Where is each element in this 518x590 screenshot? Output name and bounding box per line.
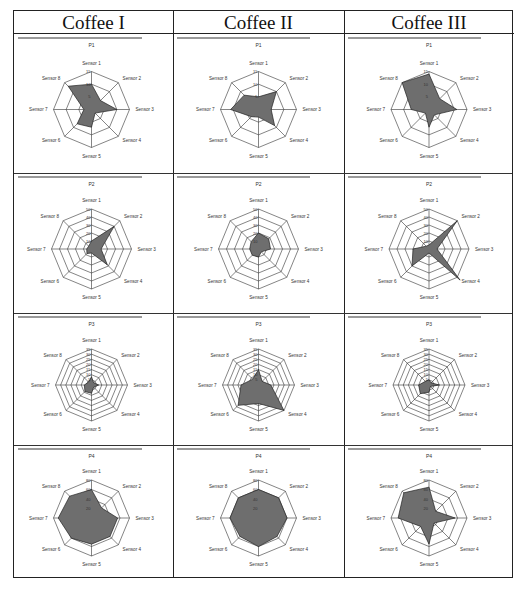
tick-label: 40 — [424, 497, 429, 502]
column-header-coffee-3: Coffee III — [344, 11, 514, 34]
tick-label: 15 — [86, 367, 91, 372]
data-series-area — [68, 84, 117, 127]
axis-label: Sensor 8 — [209, 76, 228, 81]
axis-label: Sensor 5 — [420, 427, 439, 432]
axis-label: Sensor 6 — [43, 412, 62, 417]
tick-label: 20 — [253, 506, 258, 511]
chart-title: P2 — [426, 181, 432, 187]
tick-label: 80 — [253, 478, 258, 483]
axis-label: Sensor 1 — [420, 338, 439, 343]
tick-label: 20 — [86, 362, 91, 367]
axis-label: Sensor 3 — [301, 383, 320, 388]
axis-label: Sensor 5 — [249, 295, 268, 300]
axis-label: Sensor 1 — [249, 338, 268, 343]
axis-label: Sensor 1 — [249, 198, 268, 203]
axis-label: Sensor 3 — [134, 383, 153, 388]
radar-chart-p1-coffee-1: P151015Sensor 1Sensor 2Sensor 3Sensor 4S… — [14, 34, 173, 173]
tick-label: 30 — [424, 352, 429, 357]
chart-title: P2 — [88, 181, 94, 187]
chart-grid-table: Coffee I Coffee II Coffee III P151015Sen… — [13, 10, 513, 578]
axis-label: Sensor 1 — [249, 61, 268, 66]
axis-label: Sensor 7 — [29, 107, 48, 112]
axis-label: Sensor 2 — [290, 484, 309, 489]
axis-label: Sensor 2 — [121, 353, 140, 358]
axis-spoke — [429, 360, 454, 385]
axis-label: Sensor 1 — [82, 338, 101, 343]
tick-label: 30 — [253, 223, 258, 228]
radar-chart-p1-coffee-2: P151015Sensor 1Sensor 2Sensor 3Sensor 4S… — [173, 34, 344, 173]
tick-label: 30 — [86, 223, 91, 228]
axis-label: Sensor 5 — [249, 154, 268, 159]
axis-label: Sensor 4 — [123, 547, 142, 552]
axis-label: Sensor 1 — [420, 469, 439, 474]
axis-label: Sensor 6 — [209, 138, 228, 143]
axis-label: Sensor 3 — [473, 107, 492, 112]
tick-label: 40 — [253, 215, 258, 220]
axis-label: Sensor 7 — [369, 383, 388, 388]
axis-label: Sensor 8 — [41, 214, 60, 219]
axis-label: Sensor 2 — [123, 76, 142, 81]
axis-label: Sensor 3 — [136, 516, 155, 521]
tick-label: 10 — [86, 82, 91, 87]
tick-label: 20 — [424, 506, 429, 511]
radar-plot: P420406080Sensor 1Sensor 2Sensor 3Sensor… — [14, 445, 173, 579]
chart-title: P1 — [88, 42, 94, 48]
axis-label: Sensor 5 — [82, 295, 101, 300]
radar-chart-p2-coffee-1: P21020304050Sensor 1Sensor 2Sensor 3Sens… — [14, 173, 173, 313]
column-header-coffee-2: Coffee II — [173, 11, 344, 34]
tick-label: 60 — [253, 487, 258, 492]
axis-label: Sensor 2 — [291, 214, 310, 219]
radar-chart-p2-coffee-2: P21020304050Sensor 1Sensor 2Sensor 3Sens… — [173, 173, 344, 313]
radar-chart-p2-coffee-3: P21020304050Sensor 1Sensor 2Sensor 3Sens… — [344, 173, 514, 313]
radar-plot: P21020304050Sensor 1Sensor 2Sensor 3Sens… — [344, 173, 514, 313]
radar-plot: P151015Sensor 1Sensor 2Sensor 3Sensor 4S… — [173, 34, 344, 173]
axis-label: Sensor 1 — [249, 469, 268, 474]
axis-label: Sensor 6 — [42, 138, 61, 143]
radar-plot: P151015Sensor 1Sensor 2Sensor 3Sensor 4S… — [344, 34, 514, 173]
axis-label: Sensor 7 — [194, 247, 213, 252]
axis-label: Sensor 8 — [379, 76, 398, 81]
tick-label: 80 — [86, 478, 91, 483]
tick-label: 25 — [253, 357, 258, 362]
chart-title: P1 — [255, 42, 261, 48]
axis-label: Sensor 8 — [379, 484, 398, 489]
tick-label: 25 — [424, 357, 429, 362]
radar-plot: P151015Sensor 1Sensor 2Sensor 3Sensor 4S… — [14, 34, 173, 173]
axis-label: Sensor 6 — [209, 547, 228, 552]
radar-chart-p4-coffee-3: P420406080Sensor 1Sensor 2Sensor 3Sensor… — [344, 445, 514, 579]
axis-label: Sensor 6 — [42, 547, 61, 552]
data-series-area — [402, 74, 457, 127]
axis-label: Sensor 4 — [290, 547, 309, 552]
tick-label: 15 — [253, 69, 258, 74]
axis-label: Sensor 2 — [290, 76, 309, 81]
axis-label: Sensor 1 — [82, 198, 101, 203]
tick-label: 60 — [424, 487, 429, 492]
axis-label: Sensor 7 — [29, 516, 48, 521]
tick-label: 40 — [253, 497, 258, 502]
axis-label: Sensor 3 — [303, 516, 322, 521]
axis-label: Sensor 4 — [460, 138, 479, 143]
axis-label: Sensor 7 — [196, 107, 215, 112]
tick-label: 50 — [424, 207, 429, 212]
radar-plot: P420406080Sensor 1Sensor 2Sensor 3Sensor… — [173, 445, 344, 579]
radar-plot: P35101520253035Sensor 1Sensor 2Sensor 3S… — [173, 313, 344, 445]
axis-label: Sensor 6 — [379, 547, 398, 552]
tick-label: 50 — [253, 207, 258, 212]
radar-chart-p1-coffee-3: P151015Sensor 1Sensor 2Sensor 3Sensor 4S… — [344, 34, 514, 173]
tick-label: 20 — [424, 362, 429, 367]
axis-label: Sensor 6 — [41, 279, 60, 284]
tick-label: 30 — [424, 223, 429, 228]
chart-title: P4 — [255, 453, 261, 459]
chart-title: P4 — [88, 453, 94, 459]
axis-label: Sensor 5 — [420, 295, 439, 300]
axis-label: Sensor 4 — [462, 279, 481, 284]
chart-title: P4 — [426, 453, 432, 459]
axis-label: Sensor 2 — [459, 353, 478, 358]
radar-plot: P420406080Sensor 1Sensor 2Sensor 3Sensor… — [344, 445, 514, 579]
tick-label: 15 — [86, 69, 91, 74]
tick-label: 20 — [86, 506, 91, 511]
radar-chart-p3-coffee-1: P35101520253035Sensor 1Sensor 2Sensor 3S… — [14, 313, 173, 445]
axis-label: Sensor 1 — [82, 61, 101, 66]
axis-label: Sensor 2 — [460, 484, 479, 489]
axis-label: Sensor 7 — [367, 516, 386, 521]
